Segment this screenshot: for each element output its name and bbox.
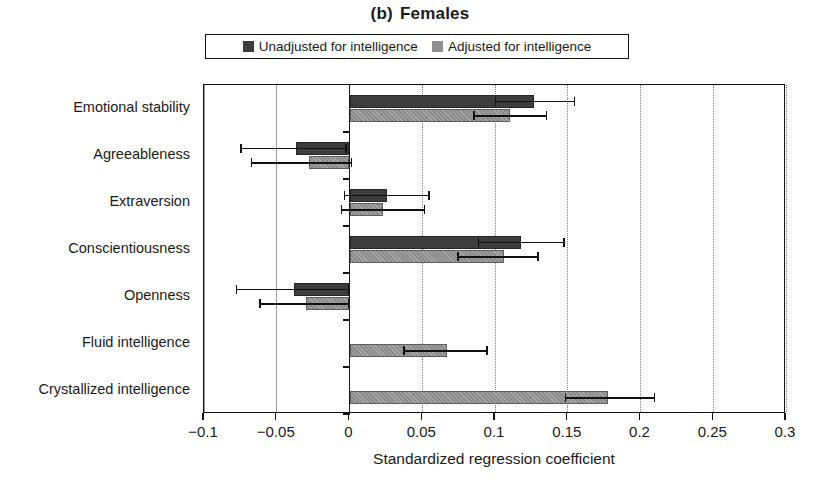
x-axis-tick bbox=[712, 413, 713, 420]
x-axis-label: Standardized regression coefficient bbox=[203, 450, 785, 468]
x-axis-tick-label: 0.1 bbox=[484, 423, 505, 440]
chart-category-row: Fluid intelligence bbox=[204, 320, 784, 367]
chart-category-row: Crystallized intelligence bbox=[204, 367, 784, 414]
error-bar bbox=[341, 205, 425, 214]
legend-swatch-icon bbox=[432, 41, 443, 52]
x-axis-tick bbox=[493, 413, 494, 420]
x-axis-tick-label: 0.15 bbox=[552, 423, 581, 440]
x-axis-tick bbox=[784, 413, 785, 420]
legend-swatch-icon bbox=[243, 41, 254, 52]
x-axis-tick-label: 0.2 bbox=[629, 423, 650, 440]
x-axis-tick bbox=[566, 413, 567, 420]
chart-category-row: Openness bbox=[204, 273, 784, 320]
y-axis-category-label: Openness bbox=[0, 287, 190, 303]
title-text: Females bbox=[400, 4, 469, 23]
error-bar bbox=[251, 158, 353, 167]
y-axis-category-label: Emotional stability bbox=[0, 99, 190, 115]
plot-area: Emotional stabilityAgreeablenessExtraver… bbox=[203, 84, 785, 413]
x-axis-tick-label: 0 bbox=[344, 423, 352, 440]
x-axis-tick-label: 0.3 bbox=[775, 423, 796, 440]
legend-label-unadjusted: Unadjusted for intelligence bbox=[259, 39, 418, 54]
x-axis-tick bbox=[421, 413, 422, 420]
x-axis-tick-label: −0.05 bbox=[257, 423, 295, 440]
y-axis-category-label: Extraversion bbox=[0, 193, 190, 209]
x-axis-tick-label: 0.05 bbox=[407, 423, 436, 440]
chart-category-row: Emotional stability bbox=[204, 85, 784, 132]
legend-item-unadjusted: Unadjusted for intelligence bbox=[243, 39, 418, 54]
chart-category-row: Agreeableness bbox=[204, 132, 784, 179]
x-axis-tick bbox=[348, 413, 349, 420]
chart-category-row: Extraversion bbox=[204, 179, 784, 226]
x-axis-tick-label: 0.25 bbox=[698, 423, 727, 440]
y-axis-category-label: Conscientiousness bbox=[0, 240, 190, 256]
error-bar bbox=[478, 238, 565, 247]
page-title: (b)Females bbox=[0, 4, 840, 24]
y-axis-category-label: Agreeableness bbox=[0, 146, 190, 162]
chart-legend: Unadjusted for intelligence Adjusted for… bbox=[205, 34, 629, 59]
error-bar bbox=[236, 285, 349, 294]
panel-letter: (b) bbox=[371, 4, 393, 23]
x-axis: −0.1−0.0500.050.10.150.20.250.3 bbox=[203, 413, 785, 414]
y-axis-category-label: Fluid intelligence bbox=[0, 334, 190, 350]
error-bar bbox=[565, 393, 655, 402]
chart-category-row: Conscientiousness bbox=[204, 226, 784, 273]
x-axis-tick-label: −0.1 bbox=[188, 423, 218, 440]
error-bar bbox=[403, 346, 487, 355]
chart-figure: (b)Females Unadjusted for intelligence A… bbox=[0, 0, 840, 488]
error-bar bbox=[473, 111, 547, 120]
error-bar bbox=[495, 97, 575, 106]
gridline bbox=[786, 85, 788, 412]
x-axis-tick bbox=[202, 413, 203, 420]
x-axis-tick bbox=[275, 413, 276, 420]
error-bar bbox=[240, 144, 346, 153]
error-bar bbox=[457, 252, 538, 261]
error-bar bbox=[259, 299, 349, 308]
x-axis-tick bbox=[639, 413, 640, 420]
legend-item-adjusted: Adjusted for intelligence bbox=[432, 39, 591, 54]
legend-label-adjusted: Adjusted for intelligence bbox=[448, 39, 591, 54]
error-bar bbox=[344, 191, 430, 200]
y-axis-category-label: Crystallized intelligence bbox=[0, 381, 190, 397]
